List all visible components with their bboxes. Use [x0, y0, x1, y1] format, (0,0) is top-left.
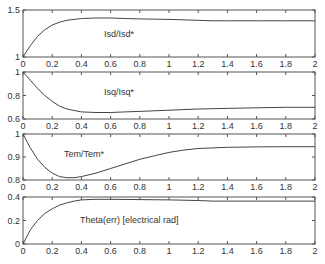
x-tick-label: 0.2 — [46, 182, 59, 192]
x-tick-label: 1.4 — [221, 182, 234, 192]
series-annotation: Isd/Isd* — [104, 29, 135, 39]
x-tick-label: 1.4 — [221, 59, 234, 69]
chart-canvas: 00.20.40.60.811.21.41.61.8211.5Isd/Isd*0… — [0, 0, 325, 264]
x-tick-label: 0.4 — [75, 59, 88, 69]
x-tick-label: 1 — [166, 59, 171, 69]
x-tick-label: 2 — [312, 182, 317, 192]
x-tick-label: 1 — [166, 182, 171, 192]
x-tick-label: 0.4 — [75, 182, 88, 192]
x-tick-label: 0.2 — [46, 121, 59, 131]
x-tick-label: 0.8 — [134, 121, 147, 131]
series-annotation: Theta(err) [electrical rad] — [80, 215, 179, 225]
x-tick-label: 0.8 — [134, 59, 147, 69]
x-tick-label: 0.4 — [75, 246, 88, 256]
x-tick-label: 0 — [20, 182, 25, 192]
y-tick-label: 1.5 — [7, 5, 20, 15]
x-tick-label: 1.4 — [221, 121, 234, 131]
x-tick-label: 0.6 — [104, 59, 117, 69]
x-tick-label: 1.2 — [192, 121, 205, 131]
axes-frame — [23, 10, 315, 57]
x-tick-label: 1 — [166, 246, 171, 256]
x-tick-label: 0.6 — [104, 182, 117, 192]
x-tick-label: 0.6 — [104, 121, 117, 131]
x-tick-label: 0.4 — [75, 121, 88, 131]
x-tick-label: 0.2 — [46, 246, 59, 256]
x-tick-label: 1.6 — [250, 182, 263, 192]
x-tick-label: 0.8 — [134, 182, 147, 192]
x-tick-label: 0.6 — [104, 246, 117, 256]
x-tick-label: 0 — [20, 59, 25, 69]
subplot-2: 00.20.40.60.811.21.41.61.820.60.81Isq/Is… — [7, 67, 317, 131]
x-tick-label: 1 — [166, 121, 171, 131]
x-tick-label: 1.8 — [280, 121, 293, 131]
y-tick-label: 0 — [15, 239, 20, 249]
series-annotation: Tem/Tem* — [64, 149, 105, 159]
y-tick-label: 1 — [15, 67, 20, 77]
x-tick-label: 0.8 — [134, 246, 147, 256]
x-tick-label: 1.4 — [221, 246, 234, 256]
x-tick-label: 1.2 — [192, 246, 205, 256]
y-tick-label: 0.2 — [7, 216, 20, 226]
y-tick-label: 1 — [15, 52, 20, 62]
x-tick-label: 1.8 — [280, 246, 293, 256]
y-tick-label: 0.9 — [7, 152, 20, 162]
y-tick-label: 0.8 — [7, 175, 20, 185]
x-tick-label: 0.2 — [46, 59, 59, 69]
x-tick-label: 1.2 — [192, 182, 205, 192]
y-tick-label: 0.4 — [7, 192, 20, 202]
x-tick-label: 1.6 — [250, 59, 263, 69]
x-tick-label: 1.2 — [192, 59, 205, 69]
x-tick-label: 0 — [20, 121, 25, 131]
x-tick-label: 0 — [20, 246, 25, 256]
x-tick-label: 1.8 — [280, 182, 293, 192]
x-tick-label: 1.6 — [250, 121, 263, 131]
x-tick-label: 1.8 — [280, 59, 293, 69]
y-tick-label: 0.8 — [7, 91, 20, 101]
y-tick-label: 0.6 — [7, 114, 20, 124]
x-tick-label: 2 — [312, 121, 317, 131]
series-annotation: Isq/Isq* — [104, 87, 135, 97]
subplot-1: 00.20.40.60.811.21.41.61.8211.5Isd/Isd* — [7, 5, 317, 69]
subplot-3: 00.20.40.60.811.21.41.61.820.80.91Tem/Te… — [7, 129, 317, 192]
x-tick-label: 1.6 — [250, 246, 263, 256]
x-tick-label: 2 — [312, 246, 317, 256]
x-tick-label: 2 — [312, 59, 317, 69]
subplot-4: 00.20.40.60.811.21.41.61.8200.20.4Theta(… — [7, 192, 317, 256]
y-tick-label: 1 — [15, 129, 20, 139]
axes-frame — [23, 72, 315, 119]
